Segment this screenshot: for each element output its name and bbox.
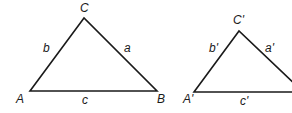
triangle-abc: C A B b a c (15, 1, 165, 107)
side-label-b-prime: b' (209, 41, 219, 55)
vertex-label-c-prime: C' (233, 13, 245, 27)
triangle-abc-prime: C' A' b' a' c' (182, 13, 292, 108)
side-label-c-prime: c' (240, 94, 249, 108)
side-label-a: a (124, 41, 131, 55)
side-label-b: b (43, 41, 50, 55)
side-label-a-prime: a' (265, 41, 275, 55)
vertex-label-c: C (80, 1, 89, 15)
vertex-label-a-prime: A' (182, 92, 194, 106)
vertex-label-a: A (15, 92, 24, 106)
side-label-c: c (82, 93, 88, 107)
vertex-label-b: B (157, 92, 165, 106)
diagram-canvas: C A B b a c C' A' b' a' c' (0, 0, 292, 113)
